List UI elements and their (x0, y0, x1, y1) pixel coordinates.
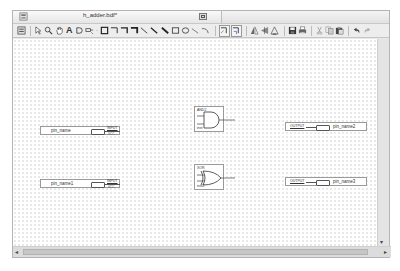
toolbar-dropdown-dot[interactable]: · (95, 26, 98, 36)
partial-line-selection-icon[interactable] (219, 25, 230, 37)
toolbar-separator (215, 26, 216, 36)
flip-vertical-icon[interactable] (260, 26, 269, 36)
copy-icon[interactable] (325, 26, 334, 36)
horizontal-scroll-thumb[interactable] (23, 249, 368, 255)
pin-body-shape (316, 125, 330, 131)
orthogonal-node-tool-icon[interactable] (100, 26, 109, 36)
toolbar-separator (284, 26, 285, 36)
horizontal-scrollbar[interactable]: ◂ ▸ (13, 246, 391, 257)
hand-tool-icon[interactable] (55, 26, 64, 36)
pin-body-shape (91, 129, 105, 135)
gate-instance-label: inst (197, 126, 202, 130)
pin-name-label: pin_name2 (333, 124, 355, 129)
pin-wire (306, 182, 316, 183)
pin-type-label: INPUT (107, 179, 118, 183)
schematic-canvas[interactable]: pin_name INPUT VCC pin_name1 INPUT VCC A… (13, 39, 379, 247)
pin-default-label: VCC (108, 185, 114, 189)
document-tab[interactable]: h_adder.bdf* (13, 11, 222, 23)
orthogonal-bus-tool-icon[interactable] (110, 26, 119, 36)
pin-name-label: pin_name (51, 128, 71, 133)
toolbar-separator (311, 26, 312, 36)
fit-window-icon[interactable] (17, 26, 26, 36)
redo-icon[interactable] (363, 26, 372, 36)
scroll-left-arrow-icon[interactable]: ◂ (15, 248, 18, 255)
diagonal-conduit-tool-icon[interactable] (161, 26, 170, 36)
input-pin[interactable]: pin_name INPUT VCC (40, 126, 120, 135)
pin-type-label: INPUT (107, 126, 118, 130)
diagonal-node-tool-icon[interactable] (140, 26, 149, 36)
print-icon[interactable] (298, 26, 307, 36)
diagonal-bus-tool-icon[interactable] (150, 26, 159, 36)
schematic-editor-window: h_adder.bdf* A · (12, 10, 390, 258)
toolbar-separator (246, 26, 247, 36)
orthogonal-conduit-tool-icon[interactable] (120, 26, 129, 36)
toolbar-separator (30, 26, 31, 36)
pin-wire (306, 127, 316, 128)
pin-tool-icon[interactable] (85, 26, 94, 36)
flip-horizontal-icon[interactable] (250, 26, 259, 36)
symbol-tool-icon[interactable] (75, 26, 84, 36)
vertical-scrollbar[interactable]: ▾ (377, 39, 389, 247)
node-tool-icon[interactable] (130, 26, 139, 36)
gate-instance-label: inst2 (197, 184, 204, 188)
line-tool-icon[interactable] (191, 26, 200, 36)
output-pin[interactable]: OUTPUT pin_name2 (285, 122, 367, 131)
title-bar: h_adder.bdf* (13, 11, 389, 24)
pin-body-shape (91, 182, 105, 188)
restore-button[interactable] (199, 13, 207, 20)
oval-tool-icon[interactable] (181, 26, 190, 36)
zoom-tool-icon[interactable] (44, 26, 53, 36)
pin-type-label: OUTPUT (290, 179, 304, 183)
rubberbanding-icon[interactable] (231, 25, 242, 37)
scroll-right-arrow-icon[interactable]: ▸ (384, 248, 387, 255)
pin-name-label: pin_name1 (51, 181, 73, 186)
paste-icon[interactable] (335, 26, 344, 36)
xor-gate[interactable]: XOR inst2 (194, 164, 224, 190)
output-pin[interactable]: OUTPUT pin_name3 (285, 177, 367, 186)
selection-tool-icon[interactable] (34, 26, 43, 36)
cut-icon[interactable] (315, 26, 324, 36)
pin-type-label: OUTPUT (290, 124, 304, 128)
save-icon[interactable] (288, 26, 297, 36)
toolbar-separator (348, 26, 349, 36)
scroll-down-arrow-icon[interactable]: ▾ (380, 238, 383, 245)
text-tool-icon[interactable]: A (65, 26, 74, 36)
pin-body-shape (316, 180, 330, 186)
and2-gate[interactable]: AND2 inst (194, 106, 224, 132)
undo-icon[interactable] (352, 26, 361, 36)
pin-name-label: pin_name3 (333, 179, 355, 184)
app-icon (19, 12, 28, 21)
pin-default-label: VCC (108, 132, 114, 136)
input-pin[interactable]: pin_name1 INPUT VCC (40, 179, 120, 188)
rotate-icon[interactable] (270, 26, 279, 36)
window-title: h_adder.bdf* (83, 12, 117, 18)
arc-tool-icon[interactable] (201, 26, 210, 36)
rectangle-tool-icon[interactable] (171, 26, 180, 36)
block-editor-toolbar: A · (13, 24, 389, 38)
